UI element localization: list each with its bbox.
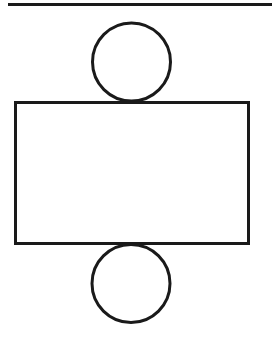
cylinder-net-diagram [0,0,278,345]
top-circle [93,23,171,101]
lateral-rectangle [16,103,249,244]
bottom-circle [92,245,170,323]
